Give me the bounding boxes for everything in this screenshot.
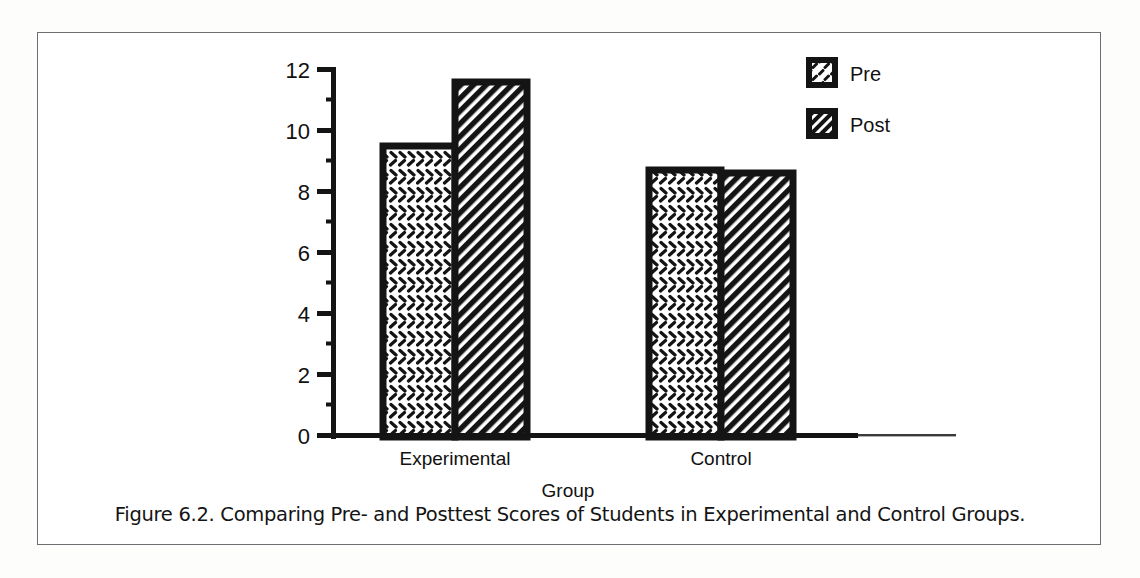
y-minor-tick-11 bbox=[326, 98, 336, 102]
y-tick-label-4: 4 bbox=[298, 302, 310, 327]
legend-swatch-pre-icon bbox=[809, 60, 835, 85]
x-category-label-control: Control bbox=[690, 448, 751, 469]
bar-experimental-pre[interactable] bbox=[383, 146, 455, 437]
bar-chart-svg: 12 10 8 6 4 2 0 bbox=[38, 33, 1102, 546]
y-minor-tick-7 bbox=[326, 220, 336, 224]
y-tick-label-12: 12 bbox=[286, 58, 310, 83]
y-axis: 12 10 8 6 4 2 0 bbox=[286, 58, 336, 449]
y-minor-tick-5 bbox=[326, 281, 336, 285]
y-tick-label-0: 0 bbox=[298, 424, 310, 449]
x-axis bbox=[331, 433, 956, 438]
bar-rect bbox=[721, 173, 793, 437]
figure-caption: Figure 6.2. Comparing Pre- and Posttest … bbox=[50, 503, 1090, 526]
y-tick-4 bbox=[317, 311, 336, 316]
y-tick-12 bbox=[317, 67, 336, 72]
legend-swatch-post-icon bbox=[809, 111, 835, 136]
y-tick-2 bbox=[317, 372, 336, 377]
x-axis-title: Group bbox=[542, 480, 595, 501]
bar-rect bbox=[455, 82, 527, 437]
legend-item-post[interactable]: Post bbox=[809, 111, 890, 136]
bar-control-post[interactable] bbox=[721, 173, 793, 437]
figure-frame: 12 10 8 6 4 2 0 bbox=[37, 32, 1101, 545]
y-tick-label-6: 6 bbox=[298, 241, 310, 266]
x-category-label-experimental: Experimental bbox=[400, 448, 511, 469]
bar-experimental-post[interactable] bbox=[455, 82, 527, 437]
y-minor-tick-9 bbox=[326, 159, 336, 163]
legend: Pre Post bbox=[809, 60, 890, 136]
y-minor-tick-3 bbox=[326, 342, 336, 346]
y-tick-label-8: 8 bbox=[298, 180, 310, 205]
y-tick-8 bbox=[317, 189, 336, 194]
y-tick-label-2: 2 bbox=[298, 363, 310, 388]
y-tick-10 bbox=[317, 128, 336, 133]
chart-plot-area: 12 10 8 6 4 2 0 bbox=[38, 33, 1102, 546]
y-tick-6 bbox=[317, 250, 336, 255]
legend-label-pre: Pre bbox=[850, 63, 881, 85]
scanned-page: 12 10 8 6 4 2 0 bbox=[0, 0, 1140, 578]
legend-item-pre[interactable]: Pre bbox=[809, 60, 881, 85]
y-minor-tick-1 bbox=[326, 403, 336, 407]
bar-control-pre[interactable] bbox=[649, 170, 721, 437]
bar-rect bbox=[649, 170, 721, 437]
legend-label-post: Post bbox=[850, 114, 890, 136]
bar-rect bbox=[383, 146, 455, 437]
y-tick-label-10: 10 bbox=[286, 119, 310, 144]
